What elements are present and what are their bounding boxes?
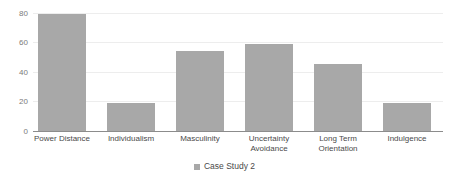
x-label-masculinity: Masculinity (166, 134, 234, 144)
bar-series-case-study-2 (33, 0, 443, 132)
y-axis-tick-labels: 80 60 40 20 0 (0, 0, 33, 145)
x-label-uncertainty-avoidance: Uncertainty Avoidance (235, 134, 303, 154)
bar-individualism[interactable] (107, 103, 155, 133)
y-tick-label-80: 80 (19, 10, 28, 18)
y-tick-label-20: 20 (19, 98, 28, 106)
x-label-individualism: Individualism (97, 134, 165, 144)
x-axis-line (33, 131, 443, 132)
x-label-power-distance: Power Distance (28, 134, 96, 144)
bar-chart: 80 60 40 20 0 Power Distance Individuali… (0, 0, 449, 180)
bar-masculinity[interactable] (176, 51, 224, 132)
legend-label-case-study-2: Case Study 2 (204, 162, 255, 171)
bar-power-distance[interactable] (38, 14, 86, 132)
bar-long-term-orientation[interactable] (314, 64, 362, 132)
bar-uncertainty-avoidance[interactable] (245, 44, 293, 133)
y-tick-label-60: 60 (19, 39, 28, 47)
x-label-long-term-orientation: Long Term Orientation (304, 134, 372, 154)
y-tick-label-40: 40 (19, 69, 28, 77)
chart-legend: Case Study 2 (0, 162, 449, 171)
bar-indulgence[interactable] (383, 103, 431, 133)
x-axis-category-labels: Power Distance Individualism Masculinity… (33, 134, 443, 160)
x-label-indulgence: Indulgence (373, 134, 441, 144)
legend-swatch-icon (194, 164, 200, 170)
